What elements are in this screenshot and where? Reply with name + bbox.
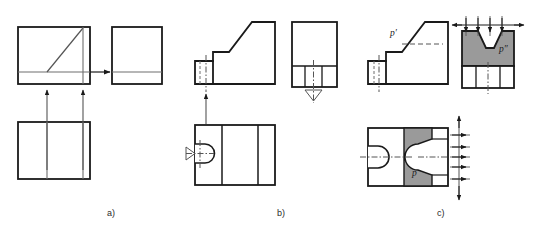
caption-b: b) [277, 208, 285, 218]
label-p-prime: p′ [389, 28, 398, 38]
caption-c: c) [437, 208, 445, 218]
label-p-double-prime: p″ [498, 44, 509, 54]
label-p-plain: p [411, 168, 417, 178]
engineering-drawing-figure: p′ p″ p [0, 0, 539, 243]
caption-a: a) [107, 208, 115, 218]
